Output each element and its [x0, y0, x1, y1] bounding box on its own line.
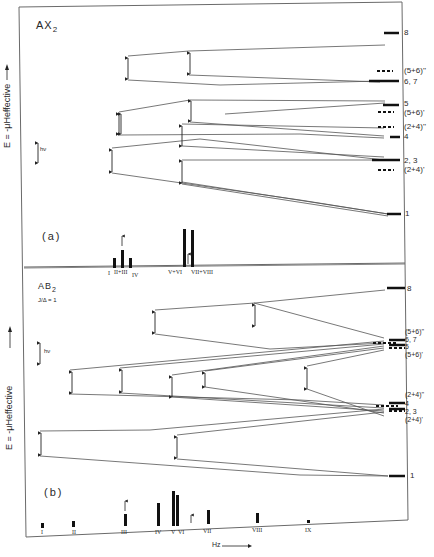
- panel-b-level-56p: (5+6)': [405, 351, 423, 358]
- panel-b-y-axis-label: E = -μHeffective: [5, 386, 14, 450]
- panel-b-level-56pp: (5+6)'': [405, 328, 424, 335]
- panel-b-level-24pp: (2+4)'': [405, 391, 424, 398]
- panel-b-level-5: 5: [405, 343, 409, 350]
- panel-b-level-8: 8: [407, 285, 411, 293]
- panel-a-spec-II-III: II+III: [114, 269, 127, 275]
- panel-a-level-56pp: (5+6)'': [404, 67, 426, 75]
- panel-b-spec-III: III: [121, 529, 127, 535]
- panel-b-transitions: [41, 305, 307, 458]
- panel-a-level-23: 2, 3: [404, 157, 417, 165]
- panel-a-spectrum: [113, 229, 194, 268]
- diagram-canvas: [0, 0, 434, 557]
- panel-a-title: AX2: [36, 20, 58, 34]
- panel-a-level-67: 6, 7: [404, 78, 417, 86]
- panel-a-level-5: 5: [404, 100, 408, 108]
- panel-b-spec-V: V: [171, 529, 175, 535]
- panel-b-level-67: 6, 7: [405, 336, 417, 343]
- energy-level-diagram: AX2 hν (a) E = -μHeffective 8 (5+6)'' 6,…: [0, 0, 434, 557]
- panel-b-spec-VII: VII: [203, 528, 211, 534]
- panel-b-ratio-label: J/Δ = 1: [38, 297, 57, 303]
- panel-b-spec-IX: IX: [305, 527, 311, 533]
- panel-a-level-24p: (2+4)': [404, 166, 424, 174]
- panel-b-spec-VIII: VIII: [252, 527, 262, 533]
- panel-a-spec-I: I: [108, 270, 110, 276]
- frame: [19, 2, 408, 537]
- panel-b-level-bars: [387, 288, 405, 476]
- panel-a-y-axis-label: E = -μHeffective: [3, 84, 12, 148]
- panel-a-level-bars: [369, 33, 401, 214]
- panel-a-level-56p: (5+6)': [404, 109, 424, 117]
- panel-a-level-8: 8: [404, 29, 408, 37]
- panel-b-dashed-bars: [373, 343, 405, 411]
- panel-a-dashed-bars: [377, 71, 394, 170]
- panel-a-title-text: AX: [36, 19, 53, 31]
- y-axis-arrowhead-b: [8, 326, 12, 332]
- panel-b-title: AB2: [38, 282, 57, 293]
- panel-b-level-23: 2, 3: [405, 408, 417, 415]
- panel-a-title-subscript: 2: [53, 25, 58, 34]
- panel-a-transitions: [112, 53, 191, 183]
- panel-b-title-text: AB: [38, 281, 52, 291]
- panel-b-title-subscript: 2: [52, 286, 57, 293]
- panel-a-hv-label: hν: [40, 146, 46, 152]
- panel-b-levels: [40, 290, 388, 476]
- panel-b-spec-IV: IV: [155, 529, 161, 535]
- panel-a-level-24pp: (2+4)'': [404, 123, 426, 131]
- panel-a-tag: (a): [42, 231, 61, 242]
- panel-a-spec-V-VI: V+VI: [168, 269, 182, 275]
- panel-a-level-1: 1: [405, 210, 409, 218]
- panel-b-spec-II: II: [72, 529, 76, 535]
- x-axis-label: Hz: [212, 541, 221, 548]
- panel-a-level-4: 4: [404, 133, 408, 141]
- panel-b-spectrum: [41, 491, 310, 528]
- x-axis-arrowhead: [248, 544, 252, 548]
- y-axis-arrowhead-a: [5, 64, 9, 70]
- panel-a-spec-IV: IV: [132, 272, 138, 278]
- panel-b-spec-VI: VI: [178, 529, 184, 535]
- panel-b-tag: (b): [44, 487, 63, 498]
- panel-b-spec-I: I: [41, 529, 43, 535]
- panel-b-level-24p: (2+4)': [405, 416, 423, 423]
- panel-b-hv-label: hν: [44, 348, 50, 354]
- panel-b-level-4: 4: [405, 400, 409, 407]
- panel-b-level-1: 1: [410, 472, 414, 480]
- panel-a-spec-VII-VIII: VII+VIII: [191, 269, 213, 275]
- panel-a-levels: [112, 45, 388, 216]
